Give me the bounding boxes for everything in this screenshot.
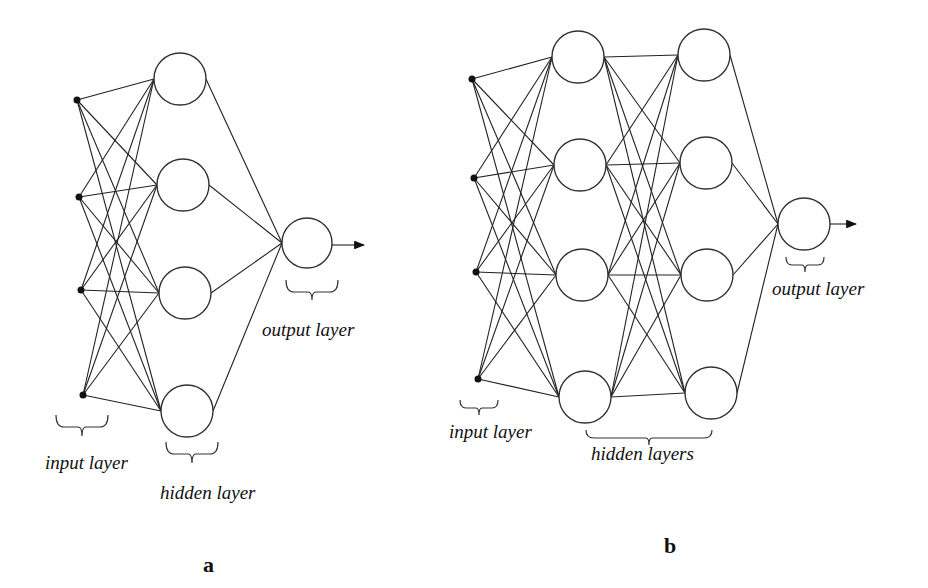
input-node [76, 194, 83, 201]
diagram-b-caption: b [664, 533, 676, 558]
connection-edge [732, 163, 778, 224]
diagram-b-output-brace [786, 257, 824, 272]
diagram-a-output-label: output layer [262, 319, 355, 340]
connection-edge [608, 275, 685, 393]
diagram-b-two-hidden-layers: output layer input layer hidden layers b [449, 29, 865, 558]
connection-edge [478, 379, 559, 397]
diagram-a-input-brace [56, 415, 108, 436]
diagram-b-input-label: input layer [449, 421, 532, 442]
input-node [78, 287, 85, 294]
diagram-b-edges-input-hidden1 [472, 57, 559, 397]
diagram-b-edges-hidden2-output [730, 55, 778, 393]
hidden-node [556, 249, 608, 301]
connection-edge [730, 55, 778, 224]
connection-edge [209, 185, 282, 243]
connection-edge [81, 79, 154, 290]
connection-edge [472, 79, 556, 275]
input-node [473, 269, 480, 276]
diagram-a-output-brace [286, 280, 338, 300]
neural-network-figure: output layer input layer hidden layer a … [0, 0, 928, 588]
diagram-b-hidden-label: hidden layers [591, 443, 694, 464]
diagram-a-input-label: input layer [45, 452, 128, 473]
connection-edge [611, 163, 680, 397]
diagram-a-hidden-brace [166, 442, 218, 463]
hidden-node [554, 139, 606, 191]
diagram-a-input-nodes [74, 97, 87, 399]
connection-edge [206, 79, 282, 243]
input-node [471, 175, 478, 182]
diagram-a-caption: a [203, 552, 214, 577]
connection-edge [604, 55, 678, 57]
hidden-node [680, 137, 732, 189]
input-node [469, 76, 476, 83]
diagram-b-hidden1-nodes [552, 31, 611, 423]
hidden-node [154, 53, 206, 105]
connection-edge [81, 185, 157, 290]
hidden-node [159, 267, 211, 319]
diagram-a-hidden-nodes [154, 53, 213, 437]
connection-edge [611, 275, 681, 397]
input-node [80, 392, 87, 399]
input-node [475, 376, 482, 383]
diagram-a-edges-hidden-output [206, 79, 282, 411]
connection-edge [77, 100, 159, 293]
diagram-b-output-node [778, 198, 830, 250]
input-node [74, 97, 81, 104]
connection-edge [737, 224, 778, 393]
hidden-node [161, 385, 213, 437]
diagram-a-output-node [282, 218, 332, 268]
hidden-node [552, 31, 604, 83]
hidden-node [559, 371, 611, 423]
diagram-a-hidden-label: hidden layer [160, 482, 256, 503]
diagram-b-input-nodes [469, 76, 482, 383]
hidden-node [685, 367, 737, 419]
diagram-b-hidden2-nodes [678, 29, 737, 419]
hidden-node [157, 159, 209, 211]
diagram-a-single-hidden-layer: output layer input layer hidden layer a [45, 53, 364, 577]
hidden-node [681, 249, 733, 301]
diagram-b-output-label: output layer [772, 278, 865, 299]
diagram-b-edges-hidden1-hidden2 [604, 55, 685, 397]
hidden-node [678, 29, 730, 81]
connection-edge [79, 197, 159, 293]
diagram-b-input-brace [460, 400, 498, 415]
diagram-a-edges-input-hidden [77, 79, 161, 411]
connection-edge [611, 393, 685, 397]
connection-edge [83, 395, 161, 411]
